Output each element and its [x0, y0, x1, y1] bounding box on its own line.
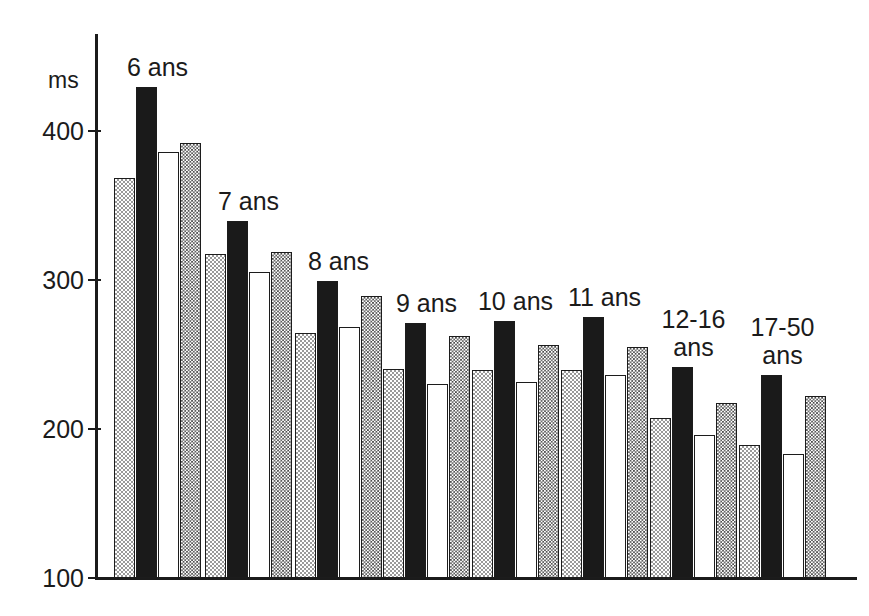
bar-serie-4-10-ans — [538, 345, 559, 578]
group-label-17-50-ans: 17-50 ans — [708, 313, 858, 369]
bar-serie-2-17-50-ans — [761, 375, 782, 578]
bar-serie-4-6-ans — [180, 143, 201, 578]
bar-serie-4-8-ans — [361, 296, 382, 578]
bar-serie-1-8-ans — [295, 333, 316, 578]
bar-serie-3-7-ans — [249, 272, 270, 578]
plot-area: 6 ans7 ans8 ans9 ans10 ans11 ans12-16 an… — [0, 0, 869, 616]
bar-serie-4-11-ans — [627, 347, 648, 578]
bar-serie-4-7-ans — [271, 252, 292, 578]
bar-serie-2-10-ans — [494, 321, 515, 578]
bar-serie-4-9-ans — [449, 336, 470, 578]
bar-serie-1-6-ans — [114, 178, 135, 578]
bar-serie-1-7-ans — [205, 254, 226, 578]
bar-serie-2-12-16-ans — [672, 367, 693, 578]
bar-serie-3-10-ans — [516, 382, 537, 578]
bar-serie-2-6-ans — [136, 87, 157, 578]
bar-serie-2-7-ans — [227, 221, 248, 578]
bar-serie-4-12-16-ans — [716, 403, 737, 578]
bar-serie-1-11-ans — [561, 370, 582, 578]
bar-serie-3-6-ans — [158, 152, 179, 578]
group-label-6-ans: 6 ans — [83, 53, 233, 81]
bar-serie-4-17-50-ans — [805, 396, 826, 578]
bar-serie-2-9-ans — [405, 323, 426, 578]
bar-serie-3-12-16-ans — [694, 435, 715, 578]
bar-serie-3-9-ans — [427, 384, 448, 578]
bar-serie-1-12-16-ans — [650, 418, 671, 578]
bar-serie-2-11-ans — [583, 317, 604, 578]
bar-chart: ms 400 300 200 100 6 ans7 ans8 ans9 ans1… — [0, 0, 869, 616]
bar-serie-1-9-ans — [383, 369, 404, 578]
bar-serie-3-17-50-ans — [783, 454, 804, 578]
bar-serie-3-8-ans — [339, 327, 360, 578]
bar-serie-3-11-ans — [605, 375, 626, 578]
bar-serie-1-17-50-ans — [739, 445, 760, 578]
bar-serie-1-10-ans — [472, 370, 493, 578]
bar-serie-2-8-ans — [317, 281, 338, 578]
